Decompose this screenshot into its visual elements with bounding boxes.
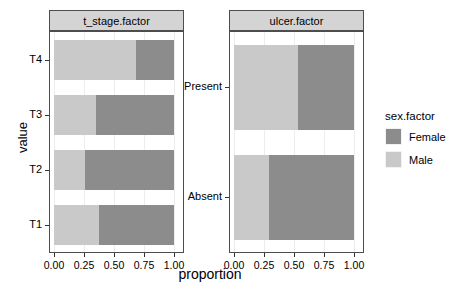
facet-strip-label: t_stage.factor — [83, 15, 150, 27]
bar-t2 — [54, 150, 174, 190]
legend-label: Male — [409, 154, 433, 166]
legend-item-female: Female — [385, 128, 446, 145]
bar-segment-male — [234, 45, 298, 130]
bar-t3 — [54, 95, 174, 135]
bar-present — [234, 45, 354, 130]
y-tick-label: T2 — [0, 163, 42, 175]
bar-segment-female — [298, 45, 354, 130]
legend-label: Female — [409, 131, 446, 143]
x-tick-mark — [234, 253, 235, 257]
x-tick-mark — [174, 253, 175, 257]
bar-segment-female — [136, 40, 174, 80]
bar-t1 — [54, 205, 174, 245]
y-tick-label: T4 — [0, 53, 42, 65]
facet-panel-ulcer — [229, 31, 364, 253]
legend-key — [385, 151, 402, 168]
legend-swatch — [386, 152, 401, 167]
facet-strip-label: ulcer.factor — [270, 15, 324, 27]
bar-segment-male — [234, 155, 269, 240]
bar-t4 — [54, 40, 174, 80]
x-tick-mark — [114, 253, 115, 257]
x-tick-mark — [324, 253, 325, 257]
x-tick-label: 1.00 — [334, 259, 374, 271]
bar-segment-female — [85, 150, 174, 190]
legend-title: sex.factor — [385, 110, 435, 122]
bar-segment-male — [54, 95, 96, 135]
bar-segment-female — [96, 95, 174, 135]
bar-absent — [234, 155, 354, 240]
x-tick-mark — [294, 253, 295, 257]
x-tick-label: 1.00 — [154, 259, 194, 271]
bar-segment-female — [269, 155, 354, 240]
legend-swatch — [386, 129, 401, 144]
legend-item-male: Male — [385, 151, 433, 168]
x-tick-mark — [354, 253, 355, 257]
bar-segment-male — [54, 40, 136, 80]
x-tick-mark — [54, 253, 55, 257]
facet-strip-t-stage: t_stage.factor — [49, 10, 184, 31]
gridline — [354, 32, 355, 252]
bar-segment-male — [54, 205, 99, 245]
bar-segment-male — [54, 150, 85, 190]
facet-strip-ulcer: ulcer.factor — [229, 10, 364, 31]
y-tick-label: T3 — [0, 108, 42, 120]
x-tick-mark — [264, 253, 265, 257]
facet-panel-t-stage — [49, 31, 184, 253]
legend-key — [385, 128, 402, 145]
x-tick-mark — [84, 253, 85, 257]
bar-segment-female — [99, 205, 174, 245]
gridline — [174, 32, 175, 252]
ggplot-chart: value proportion T4T3T2T1 PresentAbsent … — [0, 0, 465, 301]
y-tick-label: T1 — [0, 218, 42, 230]
x-tick-mark — [144, 253, 145, 257]
